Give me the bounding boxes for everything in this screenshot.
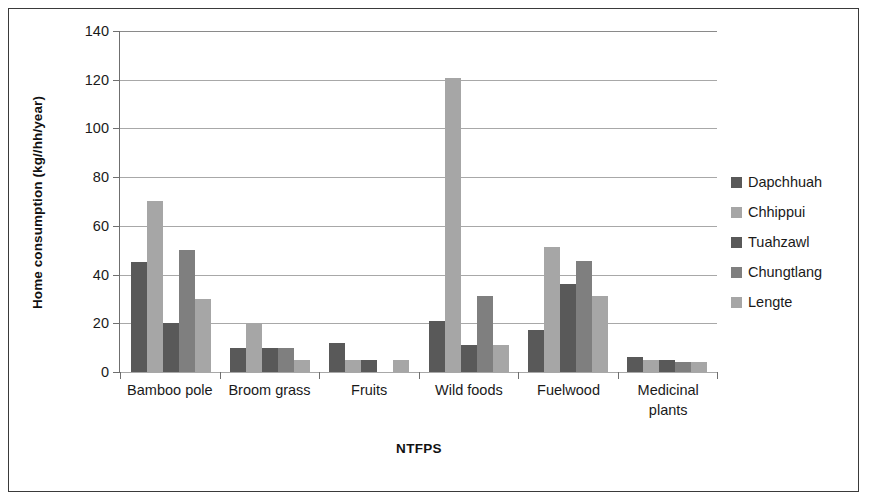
x-axis-category-label: Wild foods xyxy=(419,381,519,420)
y-axis-tick-label: 20 xyxy=(69,315,109,331)
bar-group-bars xyxy=(618,31,717,372)
y-axis-tick-label: 80 xyxy=(69,169,109,185)
bar-group xyxy=(220,31,319,372)
legend-item-label: Dapchhuah xyxy=(748,174,822,190)
x-axis-tick xyxy=(319,372,320,379)
legend-swatch-icon xyxy=(731,177,742,188)
legend-item: Tuahzawl xyxy=(731,227,856,257)
y-axis-tick xyxy=(113,226,120,227)
bar xyxy=(675,362,691,372)
bar-group xyxy=(419,31,518,372)
figure-border: Home consumption (kg//hh/year) 020406080… xyxy=(8,8,859,492)
bar xyxy=(147,201,163,372)
legend-item: Dapchhuah xyxy=(731,167,856,197)
y-axis-tick-label: 40 xyxy=(69,267,109,283)
bar xyxy=(445,78,461,372)
x-axis-category-label: Broom grass xyxy=(220,381,320,420)
bar xyxy=(691,362,707,372)
y-axis-tick xyxy=(113,177,120,178)
legend-item: Lengte xyxy=(731,287,856,317)
bar-group-bars xyxy=(320,31,419,372)
x-axis-category-label: Medicinal plants xyxy=(618,381,718,420)
x-axis-tick xyxy=(518,372,519,379)
x-axis-tick xyxy=(220,372,221,379)
y-axis-tick xyxy=(113,275,120,276)
bar-group xyxy=(320,31,419,372)
bar xyxy=(195,299,211,372)
y-axis-tick xyxy=(113,80,120,81)
bar-group-bars xyxy=(121,31,220,372)
legend-item: Chhippui xyxy=(731,197,856,227)
bar xyxy=(429,321,445,372)
legend-item: Chungtlang xyxy=(731,257,856,287)
y-axis-title-text: Home consumption (kg//hh/year) xyxy=(31,95,46,308)
x-axis-category-label: Fruits xyxy=(319,381,419,420)
bar xyxy=(246,323,262,372)
legend-item-label: Tuahzawl xyxy=(748,234,810,250)
bar xyxy=(131,262,147,372)
y-axis-title: Home consumption (kg//hh/year) xyxy=(27,31,49,373)
legend-swatch-icon xyxy=(731,207,742,218)
legend-item-label: Lengte xyxy=(748,294,792,310)
bar xyxy=(361,360,377,372)
y-axis-tick-label: 100 xyxy=(69,120,109,136)
bar xyxy=(163,323,179,372)
plot-area: 020406080100120140 xyxy=(119,31,717,373)
y-axis-tick-label: 140 xyxy=(69,23,109,39)
bar-group-bars xyxy=(220,31,319,372)
bar xyxy=(643,360,659,372)
legend-item-label: Chhippui xyxy=(748,204,805,220)
x-axis-title: NTFPS xyxy=(120,441,718,456)
bar-groups xyxy=(121,31,717,372)
bar-group xyxy=(618,31,717,372)
bar xyxy=(477,296,493,372)
x-axis-category-labels: Bamboo poleBroom grassFruitsWild foodsFu… xyxy=(120,381,718,420)
bar xyxy=(179,250,195,372)
bar xyxy=(262,348,278,372)
bar-group-bars xyxy=(518,31,617,372)
x-axis-tick xyxy=(419,372,420,379)
bar xyxy=(278,348,294,372)
bar xyxy=(592,296,608,372)
bar xyxy=(393,360,409,372)
x-axis-tick xyxy=(120,372,121,379)
y-axis-tick-label: 120 xyxy=(69,72,109,88)
legend-item-label: Chungtlang xyxy=(748,264,822,280)
bar-group-bars xyxy=(419,31,518,372)
y-axis-tick-label: 60 xyxy=(69,218,109,234)
x-axis-category-label: Fuelwood xyxy=(519,381,619,420)
legend-swatch-icon xyxy=(731,237,742,248)
x-axis-tick xyxy=(717,372,718,379)
x-axis-tick xyxy=(618,372,619,379)
y-axis-tick xyxy=(113,128,120,129)
bar xyxy=(544,247,560,372)
bar xyxy=(230,348,246,372)
legend-swatch-icon xyxy=(731,267,742,278)
bar-group xyxy=(518,31,617,372)
chart-legend: DapchhuahChhippuiTuahzawlChungtlangLengt… xyxy=(731,167,856,317)
bar xyxy=(659,360,675,372)
y-axis-tick xyxy=(113,31,120,32)
bar-group xyxy=(121,31,220,372)
bar xyxy=(345,360,361,372)
y-axis-tick xyxy=(113,323,120,324)
figure-inner: Home consumption (kg//hh/year) 020406080… xyxy=(9,9,858,491)
bar xyxy=(528,330,544,372)
bar xyxy=(294,360,310,372)
x-axis-category-label: Bamboo pole xyxy=(120,381,220,420)
chart-screenshot: Home consumption (kg//hh/year) 020406080… xyxy=(0,0,869,502)
bar xyxy=(627,357,643,372)
bar xyxy=(576,261,592,372)
legend-swatch-icon xyxy=(731,297,742,308)
bar xyxy=(461,345,477,372)
bar xyxy=(493,345,509,372)
y-axis-tick xyxy=(113,372,120,373)
y-axis-tick-label: 0 xyxy=(69,364,109,380)
bar xyxy=(560,284,576,372)
bar xyxy=(329,343,345,372)
